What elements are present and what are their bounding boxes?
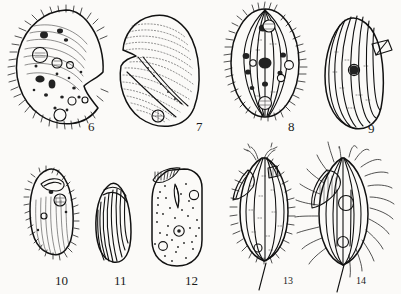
figure-6-label: 6 [88, 119, 95, 134]
figure-12-label: 12 [185, 273, 198, 288]
figure-9-nucleus [349, 65, 358, 74]
figure-7-label: 7 [196, 119, 203, 134]
figure-8-label: 8 [288, 119, 295, 134]
figure-12-nucleolus [177, 229, 181, 233]
figure-11-label: 11 [114, 273, 127, 288]
figure-14-label: 14 [356, 275, 366, 286]
figure-9-label: 9 [368, 121, 375, 136]
figure-10-label: 10 [55, 273, 68, 288]
illustration-plate: 6 7 [0, 0, 401, 294]
plate-canvas: 6 7 [0, 0, 401, 294]
figure-13-label: 13 [283, 275, 293, 286]
